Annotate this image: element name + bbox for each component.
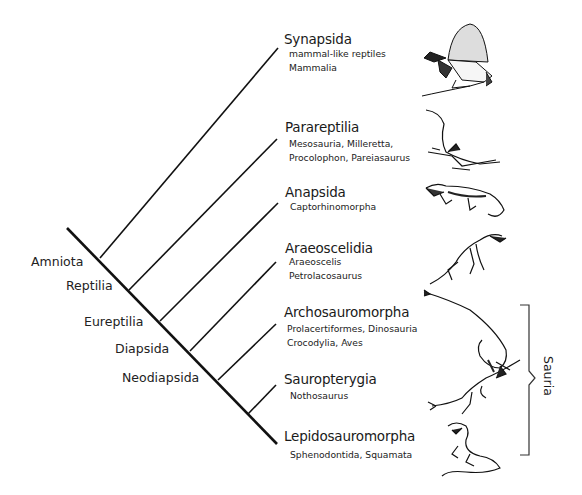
clade-member: mammal-like reptiles	[289, 47, 386, 61]
branch-anapsida	[160, 203, 278, 321]
branch-synapsida	[100, 48, 278, 258]
dimetrodon-sail-back-icon	[422, 24, 492, 96]
clade-member: Prolacertiformes, Dinosauria	[287, 322, 417, 336]
araeoscelis-icon	[430, 235, 506, 284]
trunk-line	[67, 228, 277, 444]
clade-member: Crocodylia, Aves	[287, 336, 417, 350]
node-label-amniota: Amniota	[31, 254, 83, 269]
clade-title: Parareptilia	[285, 119, 410, 135]
node-label-reptilia: Reptilia	[66, 278, 113, 293]
clade-title: Sauropterygia	[284, 371, 377, 387]
clade-title: Anapsida	[285, 184, 376, 200]
tanystropheus-long-neck-icon	[424, 290, 510, 372]
branch-araeoscelidia	[190, 262, 276, 351]
clade-member: Mesosauria, Milleretta,	[289, 137, 410, 151]
tuatara-lizard-icon	[442, 423, 500, 476]
clade-member: Sphenodontida, Squamata	[290, 448, 415, 462]
nothosaur-icon	[428, 360, 520, 414]
clade-member: Captorhinomorpha	[290, 200, 376, 214]
clade-title: Lepidosauromorpha	[284, 428, 415, 444]
clade-archosauromorpha: Archosauromorpha Prolacertiformes, Dinos…	[284, 304, 417, 350]
bracket-label-sauria: Sauria	[541, 356, 556, 396]
branch-sauropterygia	[248, 385, 276, 414]
clade-member: Procolophon, Pareiasaurus	[289, 151, 410, 165]
clade-member: Petrolacosaurus	[289, 269, 373, 283]
node-label-eureptilia: Eureptilia	[84, 314, 143, 329]
clade-title: Synapsida	[284, 31, 386, 47]
clade-sauropterygia: Sauropterygia Nothosaurus	[284, 371, 377, 403]
clade-parareptilia: Parareptilia Mesosauria, Milleretta, Pro…	[285, 119, 410, 165]
clade-member: Mammalia	[289, 61, 386, 75]
clade-synapsida: Synapsida mammal-like reptiles Mammalia	[284, 31, 386, 75]
sauria-bracket	[520, 305, 535, 455]
captorhinid-lizard-icon	[426, 184, 504, 216]
node-label-neodiapsida: Neodiapsida	[122, 370, 199, 385]
branch-archosauromorpha	[218, 324, 276, 380]
node-label-diapsida: Diapsida	[115, 341, 169, 356]
clade-lepidosauromorpha: Lepidosauromorpha Sphenodontida, Squamat…	[284, 428, 415, 462]
clade-member: Nothosaurus	[290, 389, 377, 403]
branch-parareptilia	[129, 139, 277, 290]
clade-title: Araeoscelidia	[285, 240, 373, 256]
clade-member: Araeoscelis	[289, 255, 373, 269]
mesosaur-icon	[426, 110, 500, 170]
clade-araeoscelidia: Araeoscelidia Araeoscelis Petrolacosauru…	[285, 240, 373, 283]
clade-title: Archosauromorpha	[284, 304, 417, 320]
clade-anapsida: Anapsida Captorhinomorpha	[285, 184, 376, 214]
